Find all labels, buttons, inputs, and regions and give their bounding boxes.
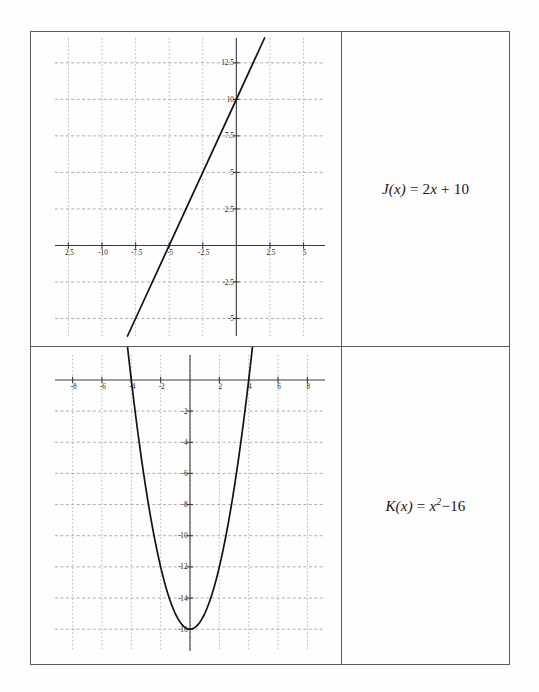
x-tick-label: -7.5 [131,249,143,257]
graph-cell-k: -8-6-4-22468-2-4-6-8-10-12-14-16 [31,347,341,664]
table-row: 2.5-10-7.5-5-2.52.5512.5107.552.5-2.5-5 … [31,32,509,346]
y-tick-label: -6 [182,470,188,478]
formula-k-operator: − [442,498,451,514]
y-tick-label: -4 [182,439,188,447]
x-tick-label: 2.5 [266,249,275,257]
x-tick-label: 2 [219,383,223,391]
graph-j: 2.5-10-7.5-5-2.52.5512.5107.552.5-2.5-5 [31,32,339,344]
graph-cell-j: 2.5-10-7.5-5-2.52.5512.5107.552.5-2.5-5 [31,32,341,346]
formula-j-lhs: J(x) [382,181,406,197]
plot-curve [128,38,265,336]
y-tick-label: -2 [182,408,188,416]
formula-cell-k: K(x) = x2−16 [341,347,509,664]
y-tick-label: 12.5 [221,59,234,67]
y-tick-label: 10 [227,96,235,104]
graph-k: -8-6-4-22468-2-4-6-8-10-12-14-16 [31,347,339,663]
formula-k-equals: = [417,498,426,514]
x-tick-label: -8 [71,383,77,391]
y-tick-label: 5 [230,169,234,177]
x-tick-label: 8 [307,383,311,391]
formula-k-text: K(x) = x2−16 [385,496,465,515]
formula-j-variable: x [430,181,437,197]
document-page: 2.5-10-7.5-5-2.52.5512.5107.552.5-2.5-5 … [0,0,539,692]
x-tick-label: -6 [100,383,106,391]
y-tick-label: -10 [178,532,188,540]
x-tick-label: 5 [303,249,307,257]
formula-cell-j: J(x) = 2x + 10 [341,32,509,346]
y-tick-label: 2.5 [225,206,234,214]
y-tick-label: 7.5 [225,132,234,140]
x-tick-label: -5 [167,249,173,257]
y-tick-label: -2.5 [222,279,234,287]
y-tick-label: -5 [228,315,234,323]
formula-k-lhs: K(x) [385,498,412,514]
x-tick-label: -2.5 [198,249,210,257]
x-tick-label: -2 [159,383,165,391]
table-row: -8-6-4-22468-2-4-6-8-10-12-14-16 K(x) = … [31,346,509,664]
x-tick-label: 6 [277,383,281,391]
y-tick-label: -8 [182,501,188,509]
x-tick-label: 2.5 [65,249,74,257]
y-tick-label: -16 [178,626,188,634]
formula-j-constant: 10 [454,181,469,197]
formula-j-operator: + [441,181,450,197]
y-tick-label: -12 [178,563,188,571]
formula-j-text: J(x) = 2x + 10 [382,181,469,198]
function-table: 2.5-10-7.5-5-2.52.5512.5107.552.5-2.5-5 … [30,31,510,665]
x-tick-label: -10 [98,249,108,257]
y-tick-label: -14 [178,595,188,603]
formula-j-equals: = [410,181,419,197]
formula-k-constant: 16 [450,498,465,514]
